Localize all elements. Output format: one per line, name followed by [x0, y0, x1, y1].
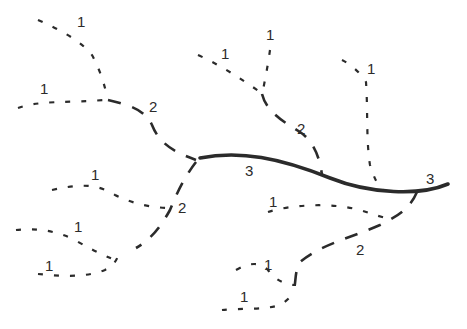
order-1-stream [262, 50, 270, 95]
order-label-1: 1 [40, 80, 48, 97]
order-label-2: 2 [178, 199, 186, 216]
order-label-1: 1 [74, 218, 82, 235]
order-label-3: 3 [245, 162, 253, 179]
stream-order-diagram: 1 1 2 1 1 2 1 3 3 1 2 1 1 1 2 1 1 [0, 0, 467, 329]
order-label-1: 1 [266, 26, 274, 43]
order-label-3: 3 [426, 170, 434, 187]
order-1-stream [16, 229, 120, 262]
order-label-2: 2 [297, 120, 305, 137]
order-label-1: 1 [221, 45, 229, 62]
order-label-1: 1 [91, 166, 99, 183]
order-1-stream [38, 20, 107, 98]
order-label-1: 1 [77, 13, 85, 30]
order-label-1: 1 [367, 60, 375, 77]
order-label-1: 1 [264, 256, 272, 273]
order-label-2: 2 [356, 241, 364, 258]
order-label-1: 1 [269, 193, 277, 210]
order-3-main-stream [200, 155, 448, 192]
order-labels: 1 1 2 1 1 2 1 3 3 1 2 1 1 1 2 1 1 [40, 13, 434, 305]
order-1-stream [52, 186, 172, 208]
order-1-stream [268, 205, 393, 220]
order-label-2: 2 [149, 98, 157, 115]
order-1-stream [18, 100, 104, 108]
order-1-stream [342, 60, 383, 190]
order-1-stream [222, 290, 294, 310]
order-label-1: 1 [240, 288, 248, 305]
order-label-1: 1 [45, 257, 53, 274]
